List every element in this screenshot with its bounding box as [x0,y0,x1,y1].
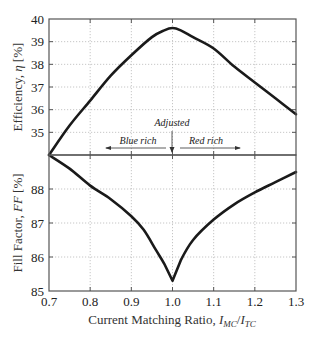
y-tick-label: 88 [31,182,44,197]
x-tick-label: 1.0 [164,294,180,309]
x-tick-label: 1.1 [206,294,222,309]
y-tick-label: 37 [31,80,45,95]
y-tick-label: 36 [31,102,45,117]
right-arrow-head-icon [235,146,241,150]
y-tick-label: 38 [31,57,44,72]
adjusted-annotation: Adjusted [154,117,191,128]
bottom-y-axis-label: Fill Factor, FF [%] [10,173,25,272]
y-tick-label: 35 [31,125,44,140]
adjusted-arrow-head-icon [170,147,175,153]
y-tick-label: 39 [31,34,44,49]
x-tick-label: 1.2 [247,294,263,309]
y-tick-label: 40 [31,12,44,27]
x-tick-label: 0.7 [41,294,58,309]
top-y-axis-label: Efficiency, η [%] [10,43,25,132]
x-axis-label: Current Matching Ratio, IMC/ITC [88,312,257,329]
blue-rich-annotation: Blue rich [120,135,157,146]
red-rich-annotation: Red rich [188,135,223,146]
y-tick-label: 87 [31,216,45,231]
chart-figure: 353637383940858687880.70.80.91.01.11.21.… [0,0,319,340]
axis-ticks: 353637383940858687880.70.80.91.01.11.21.… [31,12,304,310]
y-tick-label: 86 [31,250,45,265]
x-tick-label: 0.8 [82,294,98,309]
left-arrow-head-icon [105,146,111,150]
x-tick-label: 1.3 [288,294,304,309]
x-tick-label: 0.9 [123,294,139,309]
